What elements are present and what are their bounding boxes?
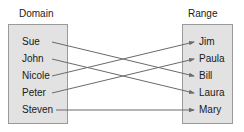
mapping-arrows <box>0 0 244 132</box>
